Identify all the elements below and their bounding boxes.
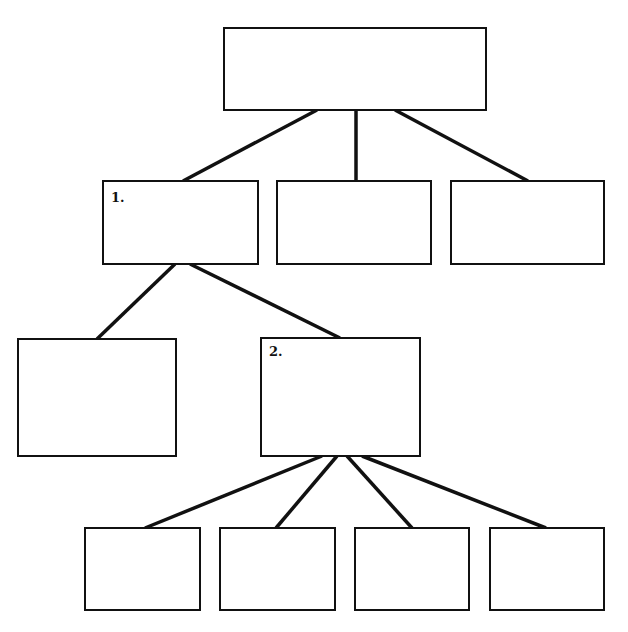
node-level2-a [18, 339, 176, 456]
node-label: 1. [111, 190, 125, 205]
edge-2-to-leaf-2 [276, 456, 337, 528]
edge-2-to-leaf-4 [362, 456, 546, 528]
edge-2-to-leaf-1 [145, 456, 322, 528]
node-root [224, 28, 486, 110]
edge-1-to-2 [190, 264, 340, 338]
node-level3-b [220, 528, 335, 610]
node-label: 2. [269, 344, 283, 359]
edge-root-to-right [395, 110, 528, 181]
edge-root-to-1 [183, 110, 317, 181]
node-level1-a [103, 181, 258, 264]
edge-1-to-left [97, 264, 175, 339]
node-level3-a [85, 528, 200, 610]
node-level1-b [277, 181, 431, 264]
node-level2-b [261, 338, 420, 456]
node-level1-c [451, 181, 604, 264]
node-level3-c [355, 528, 469, 610]
tree-diagram: 1. 2. [0, 0, 628, 632]
node-level3-d [490, 528, 604, 610]
edge-2-to-leaf-3 [347, 456, 412, 528]
